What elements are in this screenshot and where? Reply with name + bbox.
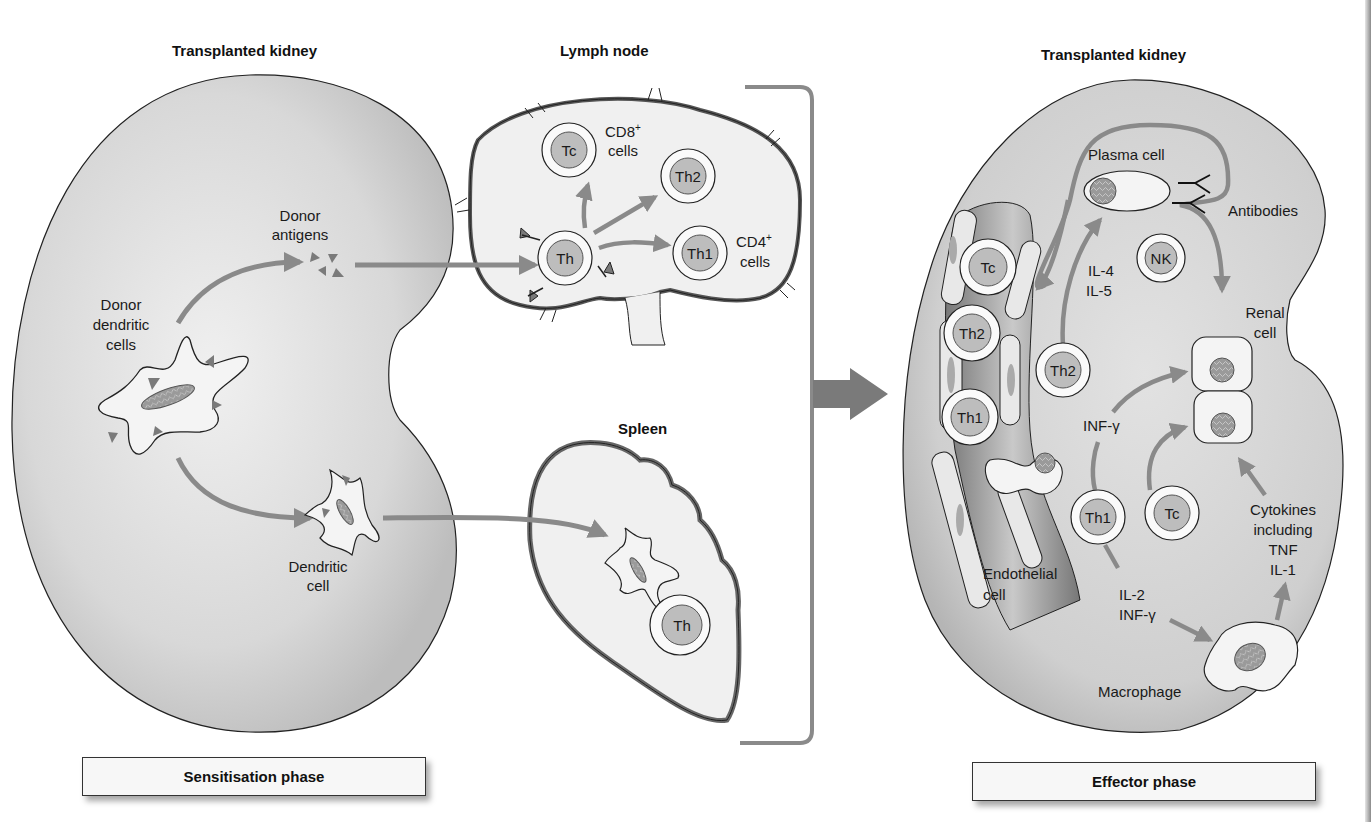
cytokines-label-3: TNF bbox=[1268, 541, 1297, 558]
renal-cell-label-2: cell bbox=[1254, 324, 1277, 341]
donor-dendritic-label-1: Donor bbox=[101, 296, 142, 313]
svg-text:Th1: Th1 bbox=[957, 409, 983, 426]
lymph-tc-cell: Tc bbox=[542, 123, 596, 177]
svg-text:Th1: Th1 bbox=[1085, 509, 1111, 526]
endothelial-label-2: cell bbox=[983, 586, 1006, 603]
cytokines-label-4: IL-1 bbox=[1270, 561, 1296, 578]
svg-text:NK: NK bbox=[1151, 250, 1172, 267]
left-kidney-shape bbox=[12, 75, 456, 732]
plasma-cell bbox=[1084, 171, 1170, 211]
svg-text:Th2: Th2 bbox=[675, 168, 701, 185]
right-kidney-title: Transplanted kidney bbox=[1041, 46, 1187, 63]
vessel-tc-cell: Tc bbox=[960, 239, 1016, 295]
lymph-th2-cell: Th2 bbox=[661, 149, 715, 203]
left-kidney-title: Transplanted kidney bbox=[172, 42, 318, 59]
page-binding-edge bbox=[1365, 0, 1371, 822]
donor-dendritic-label-3: cells bbox=[106, 336, 136, 353]
dendritic-cell-label-2: cell bbox=[307, 577, 330, 594]
tc-cell: Tc bbox=[1145, 486, 1199, 540]
svg-text:Th2: Th2 bbox=[1050, 362, 1076, 379]
endothelial-label-1: Endothelial bbox=[983, 565, 1057, 582]
svg-text:Tc: Tc bbox=[1165, 505, 1181, 522]
vessel-th2-cell: Th2 bbox=[944, 305, 1000, 361]
il2-label: IL-2 bbox=[1119, 586, 1145, 603]
cd8-cells-label: cells bbox=[608, 142, 638, 159]
effector-phase-box: Effector phase bbox=[972, 762, 1316, 801]
diagram-canvas: Transplanted kidney Donor antigens Donor… bbox=[0, 0, 1371, 822]
macrophage-label: Macrophage bbox=[1098, 683, 1181, 700]
cd4-cells-label: cells bbox=[740, 253, 770, 270]
vessel-th1-cell: Th1 bbox=[942, 389, 998, 445]
big-transition-arrow bbox=[813, 368, 888, 420]
il5-label: IL-5 bbox=[1086, 282, 1112, 299]
dendritic-cell-label-1: Dendritic bbox=[288, 558, 348, 575]
inf-gamma-label: INF-γ bbox=[1083, 417, 1120, 434]
nk-cell: NK bbox=[1137, 234, 1185, 282]
svg-text:Tc: Tc bbox=[562, 142, 578, 159]
donor-dendritic-label-2: dendritic bbox=[93, 316, 150, 333]
th1-cell: Th1 bbox=[1071, 490, 1125, 544]
spleen-th-cell: Th bbox=[650, 595, 710, 655]
svg-text:Th: Th bbox=[673, 617, 691, 634]
renal-cells bbox=[1192, 337, 1252, 443]
plasma-cell-label: Plasma cell bbox=[1088, 146, 1165, 163]
svg-text:Th2: Th2 bbox=[959, 325, 985, 342]
renal-cell-label-1: Renal bbox=[1245, 304, 1284, 321]
il4-label: IL-4 bbox=[1088, 262, 1114, 279]
donor-antigens-label-2: antigens bbox=[272, 226, 329, 243]
lymph-node-title: Lymph node bbox=[560, 42, 649, 59]
lymph-th1-cell: Th1 bbox=[673, 226, 727, 280]
svg-text:Th: Th bbox=[556, 250, 574, 267]
cytokines-label-2: including bbox=[1253, 521, 1312, 538]
sensitisation-phase-box: Sensitisation phase bbox=[82, 757, 426, 796]
cytokines-label-1: Cytokines bbox=[1250, 501, 1316, 518]
inf-gamma-2-label: INF-γ bbox=[1119, 606, 1156, 623]
svg-text:Tc: Tc bbox=[981, 259, 997, 276]
spleen-title: Spleen bbox=[618, 420, 667, 437]
antibodies-label: Antibodies bbox=[1228, 202, 1298, 219]
svg-text:Th1: Th1 bbox=[687, 245, 713, 262]
th2-cell: Th2 bbox=[1036, 343, 1090, 397]
donor-antigens-label-1: Donor bbox=[280, 207, 321, 224]
